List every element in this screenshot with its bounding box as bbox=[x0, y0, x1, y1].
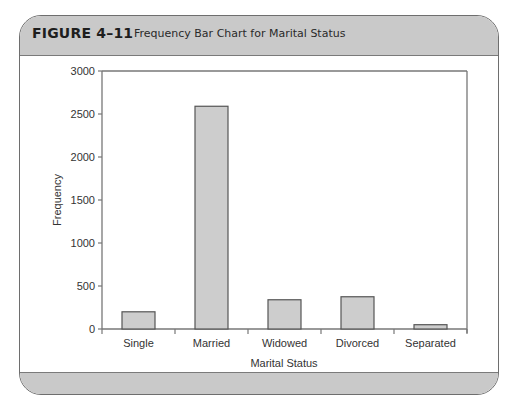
x-tick-label: Married bbox=[193, 337, 230, 349]
y-axis-label: Frequency bbox=[51, 174, 63, 226]
y-tick-label: 1500 bbox=[71, 194, 95, 206]
x-axis-label: Marital Status bbox=[250, 357, 318, 369]
x-axis: SingleMarriedWidowedDivorcedSeparated bbox=[102, 329, 467, 349]
y-axis: 050010001500200025003000 bbox=[71, 65, 467, 335]
y-tick-label: 2500 bbox=[71, 108, 95, 120]
bar-single bbox=[122, 312, 155, 329]
x-tick-label: Separated bbox=[405, 337, 456, 349]
bar-chart: 050010001500200025003000 SingleMarriedWi… bbox=[0, 0, 514, 407]
bar-divorced bbox=[341, 297, 374, 329]
x-tick-label: Widowed bbox=[262, 337, 307, 349]
x-tick-label: Single bbox=[123, 337, 154, 349]
bar-married bbox=[195, 106, 228, 329]
bar-separated bbox=[414, 325, 447, 329]
x-tick-label: Divorced bbox=[336, 337, 379, 349]
y-tick-label: 0 bbox=[89, 323, 95, 335]
y-tick-label: 1000 bbox=[71, 237, 95, 249]
y-tick-label: 500 bbox=[77, 280, 95, 292]
y-tick-label: 2000 bbox=[71, 151, 95, 163]
bars bbox=[122, 106, 447, 329]
y-tick-label: 3000 bbox=[71, 65, 95, 77]
bar-widowed bbox=[268, 300, 301, 329]
